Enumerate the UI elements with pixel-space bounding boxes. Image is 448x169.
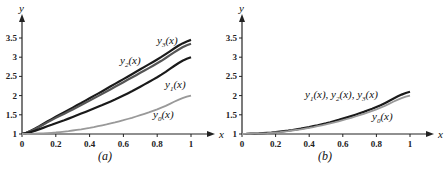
x-axis-arrow-icon xyxy=(426,131,434,137)
x-tick-label: 0 xyxy=(20,139,25,149)
x-tick-label: 1 xyxy=(189,139,194,149)
x-tick-label: 0.4 xyxy=(304,139,316,149)
y-tick-label: 2 xyxy=(233,91,238,101)
y-axis-label: y xyxy=(238,2,244,14)
y-tick-label: 1.5 xyxy=(6,110,18,120)
chart-panel-b: xy00.20.40.60.8111.522.533.5y1(x), y2(x)… xyxy=(226,2,443,163)
series-label: y0(x) xyxy=(371,110,393,125)
x-tick-label: 0.6 xyxy=(118,139,130,149)
y-axis-arrow-icon xyxy=(239,14,245,22)
y-tick-label: 1 xyxy=(13,129,18,139)
x-axis-arrow-icon xyxy=(207,131,215,137)
x-tick-label: 0.2 xyxy=(270,139,282,149)
y-axis-label: y xyxy=(18,2,24,14)
x-tick-label: 0 xyxy=(240,139,245,149)
series-label: y1(x), y2(x), y3(x) xyxy=(304,88,378,103)
chart-panel-a: xy00.20.40.60.8111.522.533.5y3(x)y2(x)y1… xyxy=(6,2,224,163)
x-tick-label: 0.2 xyxy=(50,139,62,149)
y-tick-label: 3 xyxy=(13,52,18,62)
x-tick-label: 0.6 xyxy=(337,139,349,149)
x-tick-label: 1 xyxy=(408,139,413,149)
x-axis-label: x xyxy=(218,128,224,140)
y-tick-label: 3 xyxy=(233,52,238,62)
x-axis-label: x xyxy=(437,128,443,140)
chart-figure: xy00.20.40.60.8111.522.533.5y3(x)y2(x)y1… xyxy=(0,0,448,169)
x-tick-label: 0.8 xyxy=(152,139,164,149)
panel-caption: (a) xyxy=(98,149,112,163)
y-tick-label: 2.5 xyxy=(6,71,18,81)
x-tick-label: 0.8 xyxy=(371,139,383,149)
series-label: y3(x) xyxy=(156,34,178,49)
x-tick-label: 0.4 xyxy=(84,139,96,149)
y-tick-label: 2.5 xyxy=(226,71,238,81)
y-tick-label: 2 xyxy=(13,91,18,101)
series-label: y1(x) xyxy=(164,78,186,93)
y-tick-label: 3.5 xyxy=(6,33,18,43)
y-tick-label: 3.5 xyxy=(226,33,238,43)
series-label: y0(x) xyxy=(152,108,174,123)
series-label: y2(x) xyxy=(119,54,141,69)
panel-caption: (b) xyxy=(318,149,332,163)
y-tick-label: 1.5 xyxy=(226,110,238,120)
y-axis-arrow-icon xyxy=(19,14,25,22)
y-tick-label: 1 xyxy=(233,129,238,139)
